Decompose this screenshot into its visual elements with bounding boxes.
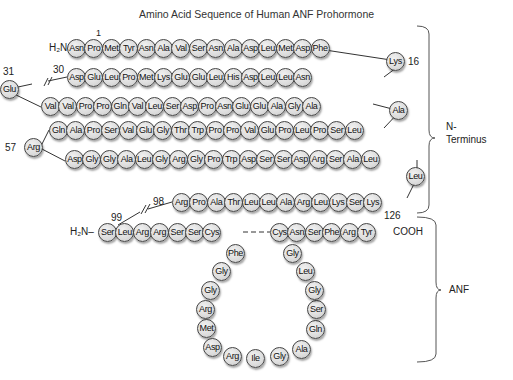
residue-number-126: 126	[384, 210, 401, 221]
residue: Glu	[258, 121, 277, 140]
residue: Ile	[246, 349, 265, 368]
residue: Arg	[223, 347, 242, 366]
residue: Met	[137, 68, 156, 87]
residue: Gln	[306, 320, 325, 339]
residue: Gly	[283, 244, 302, 263]
residue: Asp	[241, 39, 260, 58]
residue-leu-turn: Leu	[406, 167, 425, 186]
residue: Gly	[152, 150, 171, 169]
residue: Arg	[340, 223, 359, 242]
residue: Ser	[326, 150, 345, 169]
residue: Gly	[285, 97, 304, 116]
residue: Gly	[305, 281, 324, 300]
residue: Glu	[250, 97, 269, 116]
residue: Asn	[137, 39, 156, 58]
residue-arg57: Arg	[24, 138, 43, 157]
residue: Leu	[242, 193, 261, 212]
residue: Leu	[293, 121, 312, 140]
c-terminal-label: COOH	[393, 226, 423, 237]
residue: Pro	[84, 121, 103, 140]
residue: Met	[197, 319, 216, 338]
residue: Leu	[276, 68, 295, 87]
residue: Pro	[198, 97, 217, 116]
residue: Leu	[296, 262, 315, 281]
residue: Ala	[224, 39, 243, 58]
residue: Asn	[215, 97, 234, 116]
residue: Pro	[76, 97, 95, 116]
residue: Asp	[203, 338, 222, 357]
residue: Ala	[302, 97, 321, 116]
residue: Ser	[274, 150, 293, 169]
n-terminus-line1: N-	[446, 120, 487, 133]
residue: Asp	[239, 150, 258, 169]
n-terminus-label: N- Terminus	[446, 120, 487, 146]
residue: Pro	[310, 121, 329, 140]
residue-ala-turn: Ala	[389, 101, 408, 120]
residue: Val	[119, 121, 138, 140]
residue-number-31: 31	[3, 66, 14, 77]
residue: Ser	[346, 193, 365, 212]
residue: Val	[128, 97, 147, 116]
residue: Glu	[189, 68, 208, 87]
residue: Leu	[361, 150, 380, 169]
residue-number-57: 57	[5, 142, 16, 153]
residue: Arg	[196, 300, 215, 319]
residue: Ala	[292, 340, 311, 359]
residue: Thr	[171, 121, 190, 140]
residue: Ala	[207, 193, 226, 212]
residue: Asp	[241, 68, 260, 87]
residue: Asp	[67, 68, 86, 87]
residue: Phe	[311, 39, 330, 58]
residue: Leu	[259, 193, 278, 212]
residue: Val	[41, 97, 60, 116]
residue-number-30: 30	[53, 64, 64, 75]
residue: Gln	[111, 97, 130, 116]
residue: Ser	[305, 223, 324, 242]
residue: Ser	[185, 223, 204, 242]
residue: Ser	[189, 39, 208, 58]
residue: Pro	[206, 121, 225, 140]
residue: Arg	[294, 193, 313, 212]
residue: Gly	[187, 150, 206, 169]
residue: Lys	[329, 193, 348, 212]
residue: Tyr	[357, 223, 376, 242]
residue: Trp	[222, 150, 241, 169]
residue: Arg	[133, 223, 152, 242]
residue: Arg	[309, 150, 328, 169]
residue-glu31: Glu	[0, 80, 19, 99]
anf-n-terminal-label: H₂N–	[70, 226, 94, 237]
residue: Lys	[154, 68, 173, 87]
residue: Met	[102, 39, 121, 58]
residue-number-16: 16	[408, 56, 419, 67]
residue: Gly	[201, 281, 220, 300]
residue: Leu	[345, 121, 364, 140]
residue: Gln	[49, 121, 68, 140]
residue: Arg	[172, 193, 191, 212]
residue: Ser	[98, 223, 117, 242]
residue: Ser	[168, 223, 187, 242]
residue-number-1: 1	[96, 28, 101, 38]
residue: Phe	[226, 244, 245, 263]
residue: Cys	[270, 223, 289, 242]
residue: Gly	[212, 262, 231, 281]
residue: Met	[276, 39, 295, 58]
residue: Leu	[135, 150, 154, 169]
residue-number-98: 98	[153, 196, 164, 207]
residue-number-99: 99	[111, 212, 122, 223]
residue: Ala	[154, 39, 173, 58]
residue-lys16: Lys	[386, 52, 405, 71]
residue: Pro	[223, 121, 242, 140]
n-terminus-line2: Terminus	[446, 133, 487, 146]
residue: Gly	[100, 150, 119, 169]
residue: His	[224, 68, 243, 87]
anf-label: ANF	[449, 284, 469, 295]
residue: Glu	[136, 121, 155, 140]
residue: Ser	[307, 300, 326, 319]
residue: Asn	[67, 39, 86, 58]
residue: Gly	[270, 347, 289, 366]
residue: Leu	[102, 68, 121, 87]
residue: Ser	[163, 97, 182, 116]
residue: Asp	[65, 150, 84, 169]
